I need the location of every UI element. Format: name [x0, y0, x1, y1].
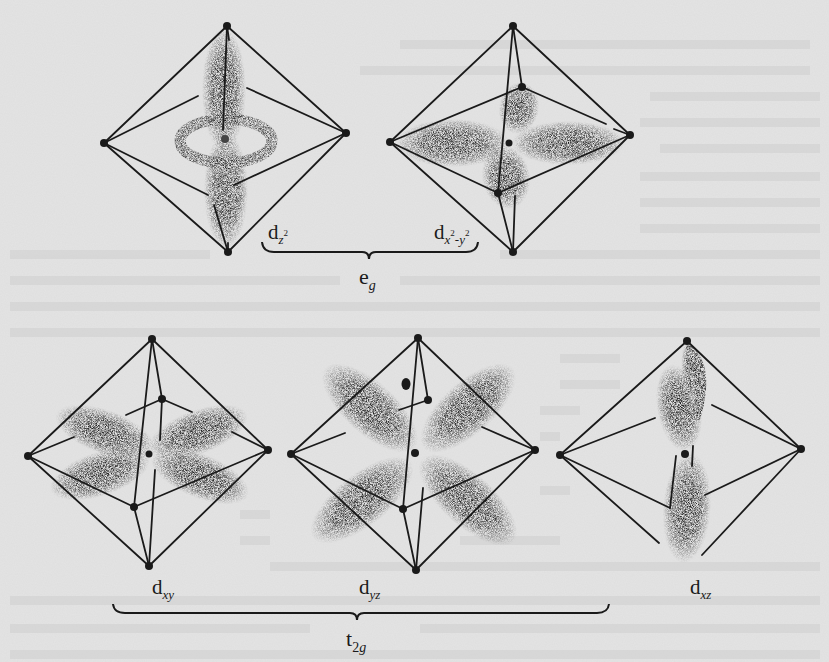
label-sub: xz — [701, 587, 712, 602]
textbook-page-scan: dz2 dx2-y2 eg dxy dyz dxz t2g — [0, 0, 829, 662]
label-base: d — [434, 220, 445, 244]
label-dx2y2: dx2-y2 — [434, 222, 469, 246]
label-sub: 2g — [352, 640, 366, 655]
label-sub-text: g — [359, 640, 366, 655]
orbital-figure — [0, 0, 829, 662]
label-sub: x2-y2 — [445, 232, 470, 247]
label-base: d — [690, 575, 701, 599]
label-sup: 2 — [284, 228, 289, 238]
label-base: e — [359, 264, 369, 289]
label-sub: g — [369, 278, 376, 293]
label-t2g: t2g — [346, 628, 366, 655]
label-eg: eg — [359, 266, 376, 293]
label-dxy: dxy — [152, 577, 174, 601]
metal-center — [221, 135, 229, 143]
ink-blot — [402, 378, 411, 390]
label-base: d — [268, 220, 279, 244]
label-dz2: dz2 — [268, 222, 288, 246]
label-sup: 2 — [465, 228, 470, 238]
metal-center — [506, 140, 513, 147]
label-sub: xy — [163, 587, 175, 602]
label-dyz: dyz — [359, 577, 380, 601]
label-sub: z2 — [279, 232, 289, 247]
label-dxz: dxz — [690, 577, 711, 601]
metal-center — [681, 450, 689, 458]
label-base: d — [359, 575, 370, 599]
metal-center — [146, 451, 153, 458]
metal-center — [411, 449, 419, 457]
label-base: d — [152, 575, 163, 599]
label-sub: yz — [370, 587, 381, 602]
